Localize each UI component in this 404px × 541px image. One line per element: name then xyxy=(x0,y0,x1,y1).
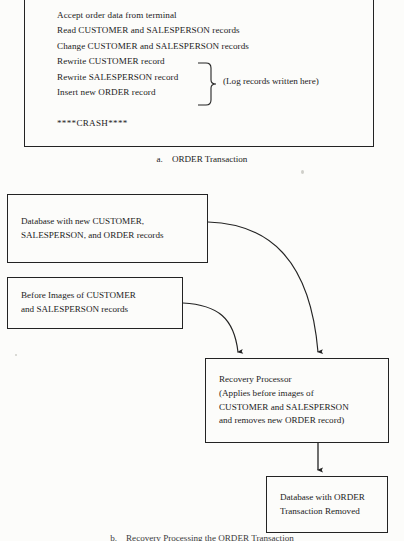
box-recovery-processor: Recovery Processor (Applies before image… xyxy=(205,358,389,443)
log-records-note: (Log records written here) xyxy=(223,76,319,86)
text-line: CUSTOMER and SALESPERSON xyxy=(219,401,349,415)
caption-part-b: b.Recovery Processing the ORDER Transact… xyxy=(0,533,404,541)
transaction-line: Read CUSTOMER and SALESPERSON records xyxy=(57,23,357,38)
box-result-database: Database with ORDER Transaction Removed xyxy=(266,476,388,533)
text-line: and SALESPERSON records xyxy=(21,303,136,317)
figure-page: Accept order data from terminal Read CUS… xyxy=(0,0,404,541)
arrow-newdb-to-recovery xyxy=(208,222,318,352)
caption-b-letter: b. xyxy=(110,533,117,541)
log-brace-group: (Log records written here) xyxy=(196,62,366,106)
crash-marker: ****CRASH**** xyxy=(57,118,128,128)
box-result-database-text: Database with ORDER Transaction Removed xyxy=(267,491,371,518)
caption-b-text: Recovery Processing the ORDER Transactio… xyxy=(126,533,294,541)
box-new-database-text: Database with new CUSTOMER, SALESPERSON,… xyxy=(8,215,169,242)
text-line: and removes new ORDER record) xyxy=(219,414,349,428)
arrow-beforeimages-to-recovery xyxy=(183,303,238,352)
box-before-images: Before Images of CUSTOMER and SALESPERSO… xyxy=(7,277,183,329)
caption-part-a: a.ORDER Transaction xyxy=(0,154,404,164)
caption-a-letter: a. xyxy=(157,154,163,164)
box-before-images-text: Before Images of CUSTOMER and SALESPERSO… xyxy=(8,289,142,316)
box-new-database: Database with new CUSTOMER, SALESPERSON,… xyxy=(7,194,208,263)
text-line: Recovery Processor xyxy=(219,373,349,387)
box-recovery-processor-text: Recovery Processor (Applies before image… xyxy=(206,373,355,427)
transaction-line: Accept order data from terminal xyxy=(57,8,357,23)
text-line: Database with ORDER xyxy=(280,491,365,505)
scan-speck xyxy=(15,354,17,356)
caption-a-text: ORDER Transaction xyxy=(172,154,248,164)
text-line: SALESPERSON, and ORDER records xyxy=(21,229,163,243)
text-line: Transaction Removed xyxy=(280,505,365,519)
text-line: Before Images of CUSTOMER xyxy=(21,289,136,303)
text-line: (Applies before images of xyxy=(219,387,349,401)
text-line: Database with new CUSTOMER, xyxy=(21,215,163,229)
scan-speck xyxy=(301,170,304,174)
transaction-line: Change CUSTOMER and SALESPERSON records xyxy=(57,39,357,54)
